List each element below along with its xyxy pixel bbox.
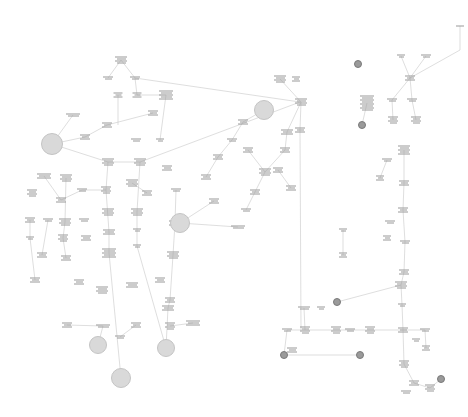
flow-node[interactable]	[280, 148, 290, 153]
flow-node[interactable]	[167, 252, 179, 259]
flow-node[interactable]	[421, 55, 431, 58]
flow-node[interactable]	[61, 256, 71, 261]
flow-node[interactable]	[227, 139, 237, 142]
flow-node[interactable]	[298, 307, 310, 310]
flow-node[interactable]	[259, 169, 271, 176]
flow-node[interactable]	[231, 226, 245, 229]
flow-node[interactable]	[66, 114, 80, 117]
flow-node[interactable]	[398, 328, 408, 333]
flow-node[interactable]	[292, 77, 300, 82]
flow-node[interactable]	[376, 176, 384, 181]
flow-node[interactable]	[133, 245, 141, 248]
flow-node[interactable]	[165, 323, 175, 330]
flow-node[interactable]	[102, 209, 114, 216]
flow-node[interactable]	[397, 55, 405, 58]
flow-node[interactable]	[131, 209, 143, 216]
flow-node[interactable]	[209, 199, 219, 204]
flow-node[interactable]	[241, 209, 251, 212]
flow-node[interactable]	[60, 175, 72, 182]
flow-node[interactable]	[407, 99, 417, 102]
flow-node[interactable]	[238, 120, 248, 125]
flow-node[interactable]	[62, 323, 72, 328]
flow-node[interactable]	[133, 229, 141, 232]
flow-node[interactable]	[331, 327, 341, 334]
flow-node[interactable]	[295, 128, 305, 133]
flow-node[interactable]	[286, 186, 296, 191]
flow-node[interactable]	[400, 241, 410, 244]
flow-node[interactable]	[56, 198, 66, 203]
flow-node[interactable]	[250, 190, 260, 195]
flow-node[interactable]	[115, 57, 127, 64]
flow-node[interactable]	[80, 135, 90, 140]
flow-node[interactable]	[273, 168, 283, 173]
flow-node[interactable]	[281, 130, 293, 135]
flow-node[interactable]	[399, 361, 409, 368]
flow-node[interactable]	[43, 219, 53, 222]
flow-node[interactable]	[133, 93, 142, 98]
flow-node[interactable]	[213, 155, 223, 160]
flow-node[interactable]	[339, 253, 347, 258]
flow-node[interactable]	[162, 166, 172, 171]
flow-node[interactable]	[243, 148, 253, 153]
flow-node[interactable]	[360, 96, 374, 111]
flow-node[interactable]	[130, 77, 140, 80]
flow-node[interactable]	[425, 385, 435, 392]
flow-node[interactable]	[115, 336, 125, 339]
flow-node[interactable]	[37, 174, 51, 179]
flow-node[interactable]	[409, 381, 419, 386]
flow-node[interactable]	[282, 329, 292, 332]
flow-node[interactable]	[405, 76, 415, 81]
flow-node[interactable]	[287, 348, 297, 353]
flow-node[interactable]	[159, 91, 173, 100]
flow-node[interactable]	[102, 249, 116, 258]
flow-node[interactable]	[388, 117, 398, 124]
ending-node[interactable]	[157, 339, 175, 357]
flow-node[interactable]	[101, 187, 111, 194]
flow-node[interactable]	[59, 219, 71, 226]
flow-node[interactable]	[103, 230, 115, 235]
flow-node[interactable]	[186, 321, 200, 326]
flow-node[interactable]	[422, 346, 430, 351]
flow-node[interactable]	[171, 189, 181, 192]
flow-node[interactable]	[412, 339, 420, 342]
flow-node[interactable]	[387, 99, 397, 102]
flow-node[interactable]	[30, 278, 40, 283]
ending-node[interactable]	[170, 213, 190, 233]
flow-node[interactable]	[131, 323, 141, 328]
flow-node[interactable]	[96, 287, 108, 294]
ending-node[interactable]	[254, 100, 274, 120]
flow-node[interactable]	[398, 304, 406, 307]
flow-node[interactable]	[456, 26, 464, 27]
flow-node[interactable]	[345, 329, 355, 332]
flow-node[interactable]	[96, 325, 110, 328]
flow-node[interactable]	[81, 236, 91, 241]
flow-node[interactable]	[102, 159, 114, 166]
flow-node[interactable]	[399, 181, 409, 186]
flow-node[interactable]	[401, 391, 411, 394]
flow-node[interactable]	[102, 123, 112, 128]
flow-node[interactable]	[77, 189, 87, 192]
flow-node[interactable]	[27, 190, 37, 197]
flow-node[interactable]	[300, 327, 310, 334]
flow-node[interactable]	[398, 146, 410, 155]
flow-node[interactable]	[142, 191, 152, 196]
flow-node[interactable]	[26, 237, 34, 240]
flow-node[interactable]	[365, 327, 375, 334]
flow-node[interactable]	[383, 236, 391, 241]
ending-node[interactable]	[89, 336, 107, 354]
flow-node[interactable]	[103, 77, 113, 80]
flow-node[interactable]	[399, 270, 409, 275]
flow-node[interactable]	[148, 111, 158, 116]
flow-node[interactable]	[165, 298, 175, 303]
flow-node[interactable]	[382, 159, 392, 162]
flow-node[interactable]	[134, 159, 146, 166]
flow-node[interactable]	[126, 180, 138, 187]
flow-node[interactable]	[339, 229, 347, 232]
flow-node[interactable]	[114, 93, 123, 98]
flow-node[interactable]	[395, 282, 407, 289]
flow-node[interactable]	[162, 306, 174, 311]
flow-node[interactable]	[37, 253, 47, 258]
flow-node[interactable]	[58, 235, 68, 242]
flow-node[interactable]	[317, 307, 325, 310]
flow-node[interactable]	[411, 117, 421, 124]
